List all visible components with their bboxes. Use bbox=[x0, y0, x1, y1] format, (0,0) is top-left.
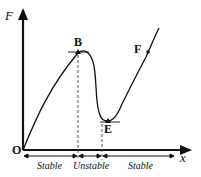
y-axis-arrow-icon bbox=[18, 8, 28, 20]
point-f-label: F bbox=[134, 43, 141, 55]
point-e-label: E bbox=[104, 123, 112, 135]
y-axis bbox=[18, 8, 28, 150]
region-unstable: Unstable bbox=[73, 161, 109, 171]
y-axis-label: F bbox=[5, 9, 13, 22]
origin-label: O bbox=[12, 144, 21, 156]
diagram-canvas bbox=[0, 0, 201, 177]
region-stable-left: Stable bbox=[37, 161, 62, 171]
point-b-label: B bbox=[74, 36, 82, 48]
point-f-marker-icon bbox=[146, 50, 150, 54]
x-axis-label: x bbox=[180, 151, 186, 164]
region-stable-right: Stable bbox=[128, 161, 153, 171]
region-arrows bbox=[24, 154, 174, 158]
